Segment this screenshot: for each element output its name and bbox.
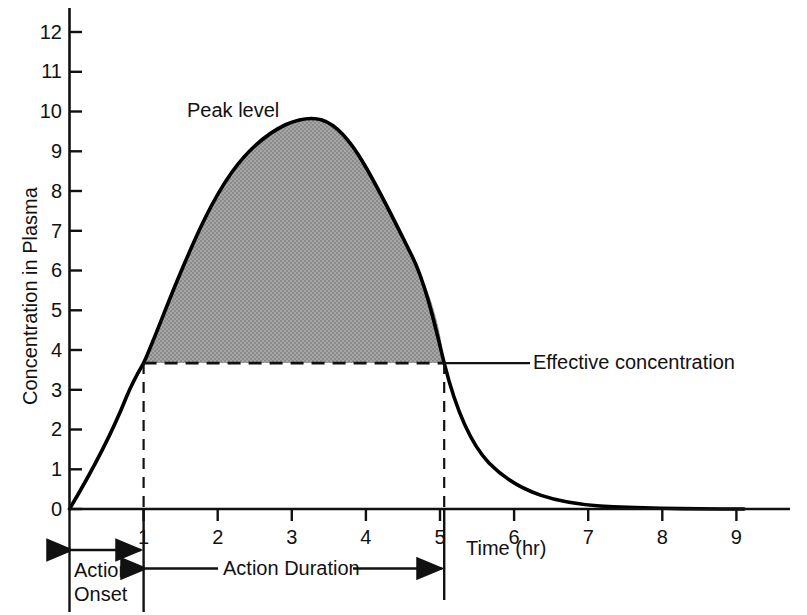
x-tick-label-1: 1 (126, 527, 162, 547)
y-axis-title: Concentration in Plasma (20, 187, 40, 405)
y-tick-label-10: 10 (26, 101, 62, 121)
x-tick-label-5: 5 (422, 527, 458, 547)
plot-area (0, 0, 807, 615)
x-axis-title: Time (hr) (466, 538, 546, 558)
action-onset-label: Action Onset (74, 559, 130, 606)
x-tick-label-2: 2 (200, 527, 236, 547)
x-tick-label-3: 3 (274, 527, 310, 547)
y-tick-label-0: 0 (26, 499, 62, 519)
action-duration-label: Action Duration (223, 558, 360, 578)
x-tick-label-7: 7 (570, 527, 606, 547)
y-tick-label-1: 1 (26, 459, 62, 479)
y-tick-label-12: 12 (26, 22, 62, 42)
shaded-region-therapeutic-window (144, 119, 445, 364)
y-tick-label-11: 11 (26, 61, 62, 81)
x-axis-ticks (144, 509, 737, 521)
peak-level-label: Peak level (187, 100, 279, 120)
effective-concentration-label: Effective concentration (533, 352, 735, 372)
x-tick-label-4: 4 (348, 527, 384, 547)
x-tick-label-9: 9 (718, 527, 754, 547)
pharmacokinetic-curve-chart: 12 11 10 9 8 7 6 5 4 3 2 1 0 1 2 3 4 5 6… (0, 0, 807, 615)
y-tick-label-9: 9 (26, 141, 62, 161)
y-axis-ticks (70, 32, 83, 509)
y-tick-label-2: 2 (26, 419, 62, 439)
x-tick-label-8: 8 (644, 527, 680, 547)
